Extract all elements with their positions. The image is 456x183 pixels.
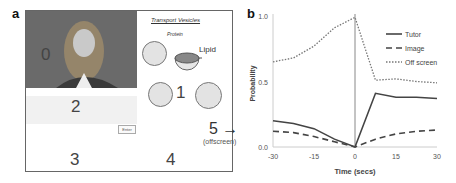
y-tick-label: 0.5 <box>258 79 268 86</box>
x-tick-label: -30 <box>268 153 278 160</box>
legend-label: Image <box>405 45 425 53</box>
probability-line-chart: 0.00.51.0-30-1501530Time (secs)Probabili… <box>0 0 456 183</box>
x-tick-label: -15 <box>309 153 319 160</box>
y-tick-label: 0.0 <box>258 144 268 151</box>
legend-label: Off screen <box>405 59 437 66</box>
y-axis-title: Probability <box>249 65 257 101</box>
chart-legend: TutorImageOff screen <box>386 31 437 66</box>
x-axis-title: Time (secs) <box>334 167 376 176</box>
legend-label: Tutor <box>405 31 422 38</box>
x-tick-label: 30 <box>433 153 441 160</box>
x-tick-label: 15 <box>392 153 400 160</box>
y-tick-label: 1.0 <box>258 13 268 20</box>
x-tick-label: 0 <box>353 153 357 160</box>
